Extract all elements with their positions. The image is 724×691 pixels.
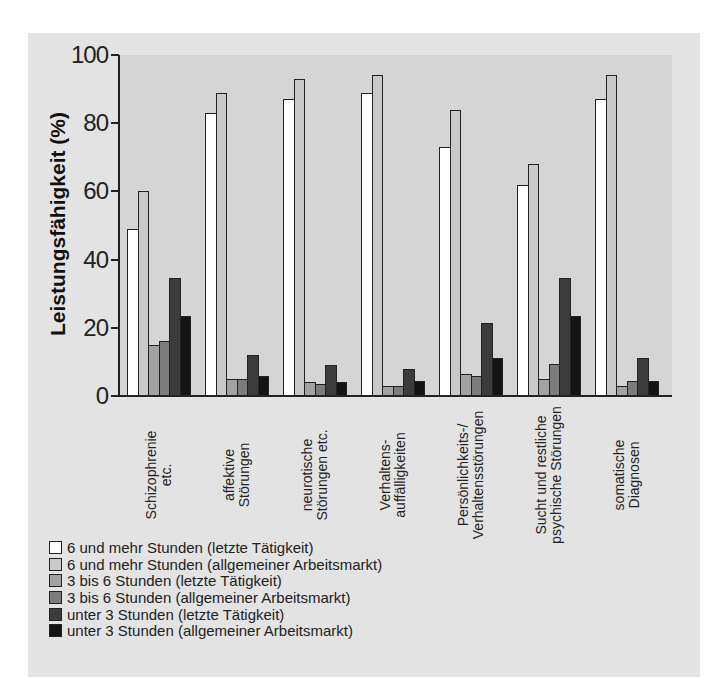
legend-item: 6 und mehr Stunden (allgemeiner Arbeitsm… <box>49 556 382 573</box>
legend-label: 3 bis 6 Stunden (letzte Tätigkeit) <box>67 572 282 589</box>
bar <box>258 376 270 396</box>
legend-swatch-icon <box>49 624 62 637</box>
legend-item: 6 und mehr Stunden (letzte Tätigkeit) <box>49 539 382 556</box>
legend-swatch-icon <box>49 558 62 571</box>
legend-item: unter 3 Stunden (letzte Tätigkeit) <box>49 606 382 623</box>
x-category-label-line: somatische <box>612 440 627 511</box>
y-tick-label: 60 <box>38 179 108 203</box>
bar <box>414 381 426 396</box>
x-category-label: Persönlichkeits-/Verhaltensstörungen <box>450 400 492 550</box>
y-tick-label: 0 <box>38 384 108 408</box>
x-category-label: neurotischeStörungen etc. <box>294 400 336 550</box>
x-category-label-line: Diagnosen <box>627 442 642 509</box>
x-axis-line <box>112 395 672 397</box>
bar <box>570 316 582 396</box>
x-category-label-line: psychische Störungen <box>549 406 564 544</box>
x-category-label-line: auffälligkeiten <box>393 432 408 517</box>
legend-item: 3 bis 6 Stunden (letzte Tätigkeit) <box>49 572 382 589</box>
x-category-label-line: Verhaltens- <box>378 440 393 511</box>
x-category-label: somatischeDiagnosen <box>606 400 648 550</box>
x-category-label-line: affektive <box>222 449 237 501</box>
legend: 6 und mehr Stunden (letzte Tätigkeit)6 u… <box>49 539 382 639</box>
x-category-label: Sucht und restlichepsychische Störungen <box>528 400 570 550</box>
legend-label: 6 und mehr Stunden (allgemeiner Arbeitsm… <box>67 556 382 573</box>
bar <box>450 110 462 396</box>
y-tick-label: 20 <box>38 316 108 340</box>
x-category-label: affektiveStörungen <box>216 400 258 550</box>
bar <box>528 164 540 396</box>
legend-item: 3 bis 6 Stunden (allgemeiner Arbeitsmark… <box>49 589 382 606</box>
bar <box>294 79 306 396</box>
legend-swatch-icon <box>49 591 62 604</box>
bar <box>606 75 618 396</box>
x-category-label-line: Persönlichkeits-/ <box>456 424 471 527</box>
x-category-label-line: Verhaltensstörungen <box>471 411 486 539</box>
bar <box>336 382 348 396</box>
x-category-label-line: Sucht und restliche <box>534 415 549 534</box>
y-tick-label: 40 <box>38 248 108 272</box>
x-category-label-line: Störungen <box>237 443 252 508</box>
legend-item: unter 3 Stunden (allgemeiner Arbeitsmark… <box>49 622 382 639</box>
y-axis-line <box>118 55 120 397</box>
bar <box>492 358 504 396</box>
x-category-label-line: etc. <box>159 464 174 487</box>
bar <box>180 316 192 396</box>
x-category-label: Schizophrenieetc. <box>138 400 180 550</box>
x-category-label-line: Störungen etc. <box>315 429 330 520</box>
legend-swatch-icon <box>49 541 62 554</box>
x-category-label-line: Schizophrenie <box>144 431 159 520</box>
bar <box>216 93 228 396</box>
bar <box>648 381 660 396</box>
legend-label: unter 3 Stunden (allgemeiner Arbeitsmark… <box>67 622 353 639</box>
legend-label: 3 bis 6 Stunden (allgemeiner Arbeitsmark… <box>67 589 350 606</box>
legend-label: unter 3 Stunden (letzte Tätigkeit) <box>67 606 284 623</box>
legend-swatch-icon <box>49 608 62 621</box>
x-category-label-line: neurotische <box>300 439 315 511</box>
bar <box>372 75 384 396</box>
x-category-label: Verhaltens-auffälligkeiten <box>372 400 414 550</box>
legend-swatch-icon <box>49 574 62 587</box>
y-tick-label: 100 <box>38 43 108 67</box>
y-axis-label: Leistungsfähigkeit (%) <box>46 112 70 336</box>
legend-label: 6 und mehr Stunden (letzte Tätigkeit) <box>67 539 314 556</box>
y-tick-label: 80 <box>38 111 108 135</box>
plot-area <box>119 55 672 396</box>
